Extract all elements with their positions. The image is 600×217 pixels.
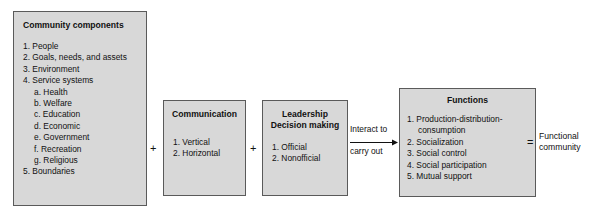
list-item: 5. Boundaries bbox=[23, 166, 146, 177]
list-item-label: Goals, needs, and assets bbox=[32, 52, 127, 62]
list-item-number: g. bbox=[34, 155, 41, 165]
list-item: d. Economic bbox=[23, 121, 146, 132]
list-item: 1. Production-distribution- consumption bbox=[407, 114, 535, 137]
box-functions-list: 1. Production-distribution- consumption … bbox=[407, 114, 535, 182]
community-components-diagram: Community components 1. People 2. Goals,… bbox=[0, 0, 600, 217]
list-item-label: Mutual support bbox=[416, 171, 471, 181]
list-item-number: 1. bbox=[272, 142, 279, 152]
box-communication: Communication 1. Vertical 2. Horizontal bbox=[163, 100, 246, 196]
list-item-number: f. bbox=[34, 144, 39, 154]
list-item-label: Government bbox=[43, 132, 89, 142]
arrow-right-icon bbox=[350, 139, 398, 146]
list-item-label: Economic bbox=[43, 121, 80, 131]
box-community-components-list: 1. People 2. Goals, needs, and assets 3.… bbox=[23, 41, 146, 178]
list-item-number: 3. bbox=[407, 148, 414, 158]
list-item-number: 4. bbox=[407, 160, 414, 170]
box-community-components: Community components 1. People 2. Goals,… bbox=[13, 11, 147, 206]
result-functional-community: Functional community bbox=[539, 131, 597, 153]
arrow-label-bottom: carry out bbox=[350, 146, 398, 156]
list-item-number: 2. bbox=[173, 148, 180, 158]
list-item-label: Horizontal bbox=[182, 148, 220, 158]
list-item: 1. People bbox=[23, 41, 146, 52]
list-item: a. Health bbox=[23, 87, 146, 98]
operator-plus-1: + bbox=[150, 143, 156, 154]
list-item-number: c. bbox=[34, 109, 41, 119]
list-item: 2. Nonofficial bbox=[272, 153, 347, 164]
list-item-number: e. bbox=[34, 132, 41, 142]
list-item: e. Government bbox=[23, 132, 146, 143]
list-item-label: Vertical bbox=[182, 137, 209, 147]
list-item-number: 1. bbox=[173, 137, 180, 147]
list-item-label: Official bbox=[281, 142, 306, 152]
list-item-number: 2. bbox=[23, 52, 30, 62]
list-item-number: 5. bbox=[407, 171, 414, 181]
list-item-number: 2. bbox=[272, 153, 279, 163]
list-item: g. Religious bbox=[23, 155, 146, 166]
box-functions: Functions 1. Production-distribution- co… bbox=[399, 88, 536, 197]
list-item: f. Recreation bbox=[23, 144, 146, 155]
list-item: b. Welfare bbox=[23, 98, 146, 109]
list-item-number: 1. bbox=[23, 41, 30, 51]
list-item-number: d. bbox=[34, 121, 41, 131]
box-leadership-decision-making-title: Leadership Decision making bbox=[263, 109, 347, 131]
list-item-label: Welfare bbox=[43, 98, 72, 108]
box-functions-title: Functions bbox=[400, 95, 535, 106]
list-item-label: Socialization bbox=[416, 137, 463, 147]
list-item-number: 1. bbox=[407, 114, 414, 124]
list-item-number: b. bbox=[34, 98, 41, 108]
operator-equals: = bbox=[527, 137, 533, 148]
list-item: 3. Environment bbox=[23, 64, 146, 75]
box-leadership-decision-making-list: 1. Official 2. Nonofficial bbox=[272, 142, 347, 165]
list-item: 1. Official bbox=[272, 142, 347, 153]
box-leadership-decision-making: Leadership Decision making 1. Official 2… bbox=[262, 100, 348, 196]
list-item-number: 3. bbox=[23, 64, 30, 74]
list-item: 2. Goals, needs, and assets bbox=[23, 52, 146, 63]
list-item-label: Religious bbox=[43, 155, 77, 165]
list-item-number: 4. bbox=[23, 75, 30, 85]
list-item-label: Service systems bbox=[32, 75, 93, 85]
list-item-label: Health bbox=[43, 87, 67, 97]
list-item-label: Recreation bbox=[41, 144, 82, 154]
operator-plus-2: + bbox=[250, 143, 256, 154]
list-item: 2. Socialization bbox=[407, 137, 535, 148]
list-item-label: Environment bbox=[32, 64, 79, 74]
list-item-label: Boundaries bbox=[32, 166, 74, 176]
list-item: 5. Mutual support bbox=[407, 171, 535, 182]
box-community-components-title: Community components bbox=[23, 20, 146, 31]
list-item: 2. Horizontal bbox=[173, 148, 245, 159]
arrow-label-top: Interact to bbox=[350, 124, 398, 134]
list-item-number: a. bbox=[34, 87, 41, 97]
list-item: 1. Vertical bbox=[173, 137, 245, 148]
list-item-label: Social participation bbox=[416, 160, 486, 170]
list-item-label: People bbox=[32, 41, 58, 51]
list-item: 4. Social participation bbox=[407, 160, 535, 171]
list-item-label: Nonofficial bbox=[281, 153, 320, 163]
interact-to-carry-out-arrow: Interact to carry out bbox=[350, 124, 398, 160]
list-item-number: 5. bbox=[23, 166, 30, 176]
box-communication-list: 1. Vertical 2. Horizontal bbox=[173, 137, 245, 160]
list-item-label: Social control bbox=[416, 148, 466, 158]
box-communication-title: Communication bbox=[164, 109, 245, 120]
list-item-number: 2. bbox=[407, 137, 414, 147]
list-item-label: Production-distribution- consumption bbox=[416, 114, 502, 135]
list-item: 4. Service systems bbox=[23, 75, 146, 86]
list-item: 3. Social control bbox=[407, 148, 535, 159]
list-item-label: Education bbox=[43, 109, 80, 119]
list-item: c. Education bbox=[23, 109, 146, 120]
